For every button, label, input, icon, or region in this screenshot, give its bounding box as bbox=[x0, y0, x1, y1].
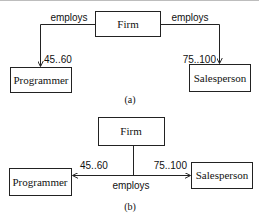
multiplicity-salesperson-a: 75..100 bbox=[183, 54, 217, 65]
class-box-firm-b[interactable]: Firm bbox=[99, 118, 165, 146]
multiplicity-salesperson-b: 75..100 bbox=[154, 160, 188, 171]
class-box-salesperson-a[interactable]: Salesperson bbox=[190, 65, 251, 92]
diagram-canvas: Firm employs 45..60 Programmer employs 7… bbox=[0, 0, 259, 219]
class-label-salesperson-a: Salesperson bbox=[194, 72, 247, 84]
multiplicity-programmer-a: 45..60 bbox=[44, 54, 72, 65]
caption-b: (b) bbox=[124, 201, 136, 213]
relation-label-employs-right-a: employs bbox=[171, 12, 208, 23]
class-label-firm-b: Firm bbox=[120, 125, 142, 137]
class-box-salesperson-b[interactable]: Salesperson bbox=[192, 163, 253, 189]
caption-a: (a) bbox=[124, 94, 135, 106]
class-box-programmer-a[interactable]: Programmer bbox=[11, 68, 72, 93]
multiplicity-programmer-b: 45..60 bbox=[80, 160, 108, 171]
relation-label-employs-b: employs bbox=[112, 180, 149, 191]
class-box-firm-a[interactable]: Firm bbox=[96, 12, 161, 37]
diagram-b: Firm 45..60 75..100 employs Programmer S… bbox=[10, 118, 253, 214]
class-label-salesperson-b: Salesperson bbox=[196, 169, 249, 181]
class-label-programmer-a: Programmer bbox=[14, 74, 69, 86]
class-label-firm-a: Firm bbox=[117, 18, 139, 30]
class-box-programmer-b[interactable]: Programmer bbox=[10, 169, 72, 196]
relation-label-employs-left-a: employs bbox=[50, 12, 87, 23]
diagram-a: Firm employs 45..60 Programmer employs 7… bbox=[11, 12, 251, 107]
class-label-programmer-b: Programmer bbox=[13, 176, 68, 188]
